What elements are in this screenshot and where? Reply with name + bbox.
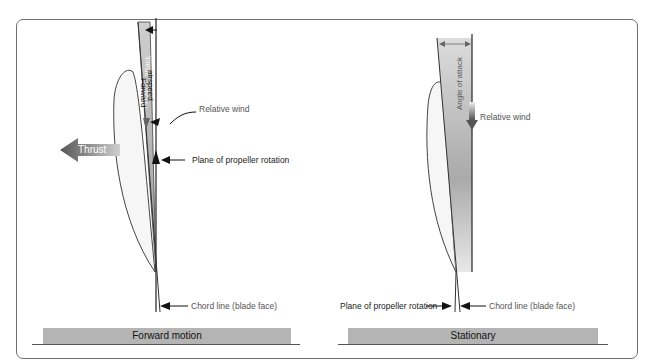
forward-airspeed-label-2: airspeed bbox=[146, 70, 155, 101]
chord-line-label: Chord line (blade face) bbox=[489, 301, 575, 311]
forward-motion-diagram bbox=[60, 18, 196, 312]
relative-wind-label: Relative wind bbox=[480, 112, 531, 122]
stationary-caption: Stationary bbox=[348, 328, 598, 344]
ground-line-right bbox=[338, 344, 608, 345]
ground-line-left bbox=[32, 344, 300, 345]
relative-wind-label: Relative wind bbox=[199, 104, 250, 114]
thrust-label: Thrust bbox=[78, 144, 106, 155]
angle-of-attack-label: Angle of attack bbox=[455, 57, 464, 110]
plane-of-rotation-label: Plane of propeller rotation bbox=[340, 301, 437, 311]
plane-of-rotation-label: Plane of propeller rotation bbox=[192, 155, 289, 165]
forward-motion-caption: Forward motion bbox=[43, 328, 291, 344]
chord-line-label: Chord line (blade face) bbox=[191, 301, 277, 311]
